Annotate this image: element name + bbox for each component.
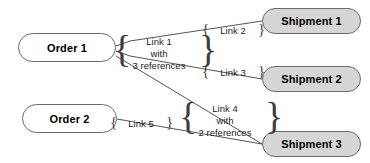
edge-label-link3: {}Link 3 <box>209 67 257 79</box>
edge-label-line-0: Link 2 <box>209 25 257 37</box>
brace-open-icon: { <box>179 97 197 135</box>
brace-open-icon: { <box>110 115 117 130</box>
edge-label-line-1: with <box>120 48 198 60</box>
edge-label-line-0: Link 4 <box>186 103 264 115</box>
node-order1[interactable]: Order 1 <box>18 33 116 62</box>
node-shipment1[interactable]: Shipment 1 <box>262 8 361 34</box>
node-label: Shipment 2 <box>281 73 341 85</box>
edge-label-link1: {}Link 1with3 references <box>120 36 198 72</box>
edge-label-line-0: Link 3 <box>209 67 257 79</box>
node-label: Order 2 <box>50 113 90 125</box>
diagram-canvas: Order 1Order 2Shipment 1Shipment 2Shipme… <box>0 0 370 163</box>
edge-label-link5: {}Link 5 <box>117 118 165 130</box>
edge-label-link2: {}Link 2 <box>209 25 257 37</box>
edge-label-link4: {}Link 4with2 references <box>186 103 264 139</box>
brace-open-icon: { <box>113 30 131 68</box>
node-shipment2[interactable]: Shipment 2 <box>262 66 361 92</box>
node-label: Shipment 3 <box>281 138 341 150</box>
brace-close-icon: } <box>258 22 265 37</box>
edge-label-line-0: Link 5 <box>117 118 165 130</box>
edge-label-line-1: with <box>186 115 264 127</box>
brace-open-icon: { <box>202 22 209 37</box>
node-label: Shipment 1 <box>281 15 341 27</box>
edge-label-line-2: 2 references <box>186 127 264 139</box>
node-order2[interactable]: Order 2 <box>22 104 117 133</box>
brace-close-icon: } <box>258 64 265 79</box>
brace-close-icon: } <box>265 97 283 135</box>
edge-label-line-2: 3 references <box>120 60 198 72</box>
brace-open-icon: { <box>202 64 209 79</box>
edge-label-line-0: Link 1 <box>120 36 198 48</box>
node-label: Order 1 <box>47 42 87 54</box>
brace-close-icon: } <box>166 115 173 130</box>
